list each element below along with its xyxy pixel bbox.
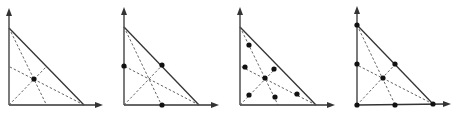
sample-point (354, 61, 359, 66)
sample-point (246, 92, 251, 97)
median-from-origin (124, 66, 162, 105)
sample-point (246, 42, 251, 47)
triangle-diagrams (0, 0, 458, 115)
y-arrow-icon (6, 8, 12, 16)
median-from-right (124, 66, 199, 105)
sample-point (271, 66, 276, 71)
sample-point (242, 64, 247, 69)
panel-1 (6, 8, 103, 108)
median-from-top (357, 25, 395, 105)
sample-point (121, 63, 126, 68)
panel-4 (354, 6, 451, 108)
sample-point (430, 101, 435, 106)
median-from-origin (240, 66, 278, 105)
x-arrow-icon (95, 102, 103, 108)
figure (0, 0, 458, 115)
sample-point (159, 102, 164, 107)
sample-point (354, 102, 359, 107)
sample-point (159, 62, 164, 67)
y-arrow-icon (237, 7, 243, 15)
median-from-origin (357, 65, 395, 106)
median-from-right (357, 65, 433, 104)
median-from-top (9, 28, 47, 105)
x-arrow-icon (327, 102, 335, 108)
median-from-right (240, 66, 316, 105)
sample-point (31, 76, 36, 81)
x-arrow-icon (443, 101, 451, 107)
sample-point (262, 75, 267, 80)
x-arrow-icon (211, 102, 219, 108)
sample-point (392, 61, 397, 66)
sample-point (272, 94, 277, 99)
median-from-top (124, 27, 162, 105)
sample-point (392, 102, 397, 107)
panel-3 (237, 7, 335, 108)
sample-point (354, 22, 359, 27)
median-from-right (9, 67, 84, 106)
panel-2 (121, 7, 219, 108)
y-arrow-icon (354, 6, 360, 14)
y-arrow-icon (121, 7, 127, 15)
sample-point (380, 75, 385, 80)
median-from-origin (9, 67, 47, 106)
sample-point (294, 91, 299, 96)
